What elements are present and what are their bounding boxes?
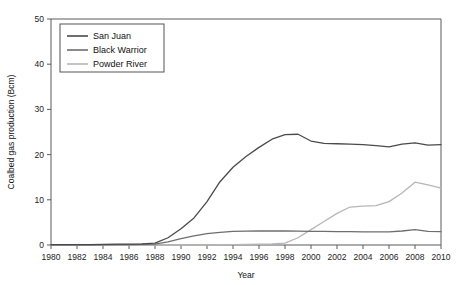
legend-item-san-juan-label: San Juan [93,31,131,41]
x-tick-label: 1984 [94,252,113,262]
x-tick-label: 1992 [198,252,217,262]
x-tick-label: 1998 [276,252,295,262]
x-tick-label: 2000 [302,252,321,262]
x-tick-label: 2006 [380,252,399,262]
y-axis-title: Coalbed gas production (Bcm) [6,74,16,189]
y-tick-label: 0 [39,240,44,250]
y-tick-label: 40 [35,59,45,69]
x-tick-label: 1988 [146,252,165,262]
chart-container: 01020304050 1980198219841986198819901992… [0,0,464,285]
y-tick-label: 50 [35,14,45,24]
chart-legend: San JuanBlack WarriorPowder River [60,24,164,72]
x-tick-label: 2004 [354,252,373,262]
x-tick-label: 1986 [120,252,139,262]
x-axis-title: Year [237,270,254,280]
x-tick-label: 2010 [432,252,451,262]
x-tick-label: 1994 [224,252,243,262]
y-tick-label: 10 [35,195,45,205]
x-tick-label: 1990 [172,252,191,262]
legend-item-black-warrior-label: Black Warrior [93,45,147,55]
x-tick-label: 1982 [68,252,87,262]
x-tick-label: 1980 [42,252,61,262]
x-tick-label: 1996 [250,252,269,262]
x-tick-label: 2008 [406,252,425,262]
legend-item-powder-river-label: Powder River [93,59,147,69]
y-tick-label: 20 [35,150,45,160]
y-tick-label: 30 [35,104,45,114]
x-tick-label: 2002 [328,252,347,262]
coalbed-gas-production-line-chart: 01020304050 1980198219841986198819901992… [0,0,464,285]
